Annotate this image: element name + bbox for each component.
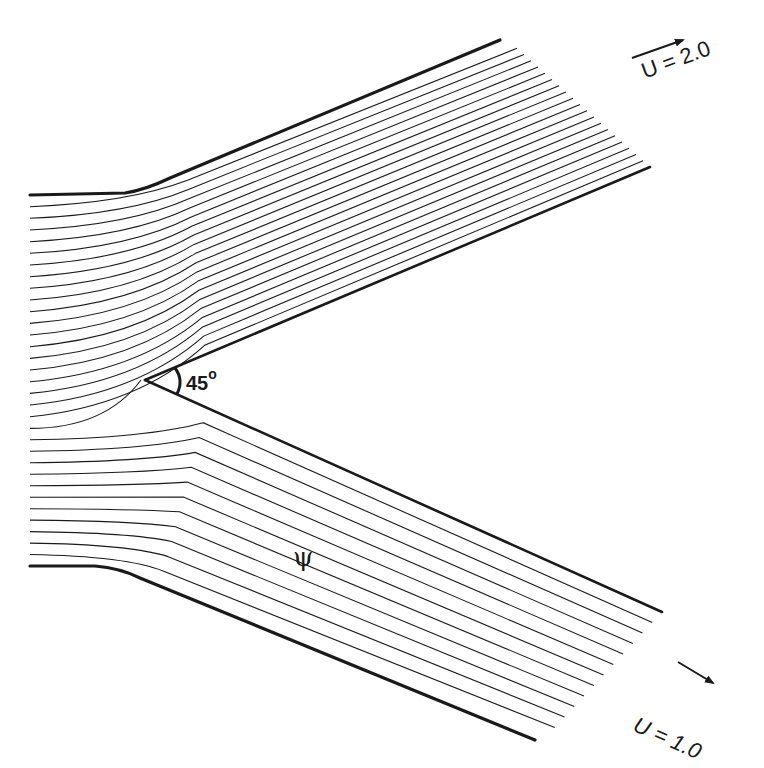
streamline: [30, 380, 141, 428]
streamline: [30, 86, 559, 277]
lower-outlet-arrow-icon: [678, 662, 713, 683]
wedge-angle-value: 45: [186, 372, 208, 394]
streamline: [30, 130, 608, 359]
streamline: [30, 142, 622, 382]
degree-symbol: o: [208, 366, 217, 382]
streamline: [30, 148, 629, 393]
streamline: [30, 67, 538, 242]
lower-outer-wall: [30, 566, 535, 740]
upper-outer-wall: [30, 40, 500, 195]
streamlines: [30, 48, 652, 727]
streamline: [30, 73, 545, 253]
streamline: [30, 161, 643, 417]
lower-inner-wall: [145, 380, 662, 612]
streamline: [30, 497, 604, 675]
streamline-diagram: [0, 0, 764, 768]
angle-arc: [175, 368, 180, 394]
stream-function-symbol: ψ: [293, 542, 313, 572]
streamline: [30, 61, 531, 230]
streamline: [30, 80, 552, 266]
wedge-angle-label: 45o: [186, 369, 217, 395]
outlet-arrows: [632, 40, 713, 683]
